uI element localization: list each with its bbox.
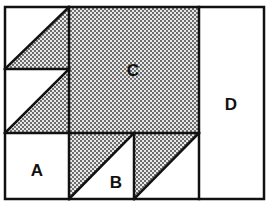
label-d: D (225, 95, 237, 114)
quilt-diagram: A B C D (0, 0, 269, 210)
label-a: A (31, 161, 43, 180)
label-c: C (127, 61, 139, 80)
label-b: B (110, 173, 122, 192)
